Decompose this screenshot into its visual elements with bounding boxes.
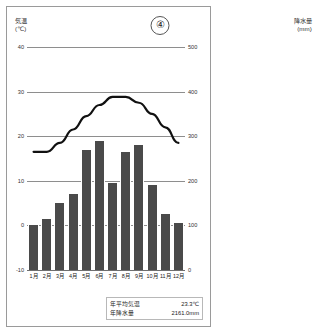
month-label: 5月 <box>80 272 93 280</box>
right-axis-tick: 200 <box>188 178 197 184</box>
avg-temp-row: 年平均気温 23.3℃ <box>110 300 199 309</box>
temperature-line <box>27 47 185 270</box>
month-label: 7月 <box>106 272 119 280</box>
month-label: 6月 <box>93 272 106 280</box>
month-label: 9月 <box>132 272 145 280</box>
left-axis-tick: 40 <box>18 44 24 50</box>
month-label: 3月 <box>53 272 66 280</box>
month-label: 10月 <box>146 272 159 280</box>
right-axis-tick: 300 <box>188 133 197 139</box>
left-axis-tick: -10 <box>16 267 24 273</box>
plot-area: 403020100-10 5004003002001000 <box>27 47 185 270</box>
month-label: 8月 <box>119 272 132 280</box>
month-label: 4月 <box>67 272 80 280</box>
right-axis-tick: 100 <box>188 222 197 228</box>
left-axis-tick: 30 <box>18 89 24 95</box>
left-axis-unit: (℃) <box>15 25 27 33</box>
month-labels: 1月2月3月4月5月6月7月8月9月10月11月12月 <box>27 272 185 282</box>
left-axis-tick: 0 <box>21 222 24 228</box>
month-label: 11月 <box>159 272 172 280</box>
left-axis-title-text: 気温 <box>15 17 27 24</box>
total-precip-value: 2161.0mm <box>168 309 199 318</box>
left-axis-tick: 20 <box>18 133 24 139</box>
month-label: 2月 <box>40 272 53 280</box>
avg-temp-value: 23.3℃ <box>177 300 199 309</box>
left-axis-tick: 10 <box>18 178 24 184</box>
month-label: 1月 <box>27 272 40 280</box>
right-axis-tick: 500 <box>188 44 197 50</box>
right-axis-tick: 0 <box>188 267 191 273</box>
temperature-curve-path <box>34 97 179 152</box>
total-precip-label: 年降水量 <box>110 309 134 318</box>
left-axis-title: 気温 (℃) <box>15 17 27 33</box>
avg-temp-label: 年平均気温 <box>110 300 141 309</box>
gridline <box>27 270 185 271</box>
annual-summary-box: 年平均気温 23.3℃ 年降水量 2161.0mm <box>106 297 203 320</box>
month-label: 12月 <box>172 272 185 280</box>
right-axis-tick: 400 <box>188 89 197 95</box>
figure-number: ④ <box>151 16 170 35</box>
total-precip-row: 年降水量 2161.0mm <box>110 309 199 318</box>
